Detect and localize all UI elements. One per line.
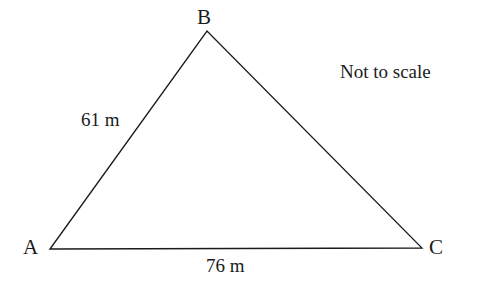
side-length-label-ac: 76 m	[206, 256, 245, 275]
not-to-scale-note: Not to scale	[340, 62, 431, 81]
vertex-label-a: A	[23, 237, 38, 258]
triangle-figure: B A C 61 m 76 m Not to scale	[0, 0, 484, 290]
side-length-label-ab: 61 m	[81, 110, 120, 129]
vertex-label-c: C	[429, 237, 443, 258]
vertex-label-b: B	[197, 7, 211, 28]
triangle-canvas	[0, 0, 484, 290]
figure-background	[0, 0, 484, 290]
